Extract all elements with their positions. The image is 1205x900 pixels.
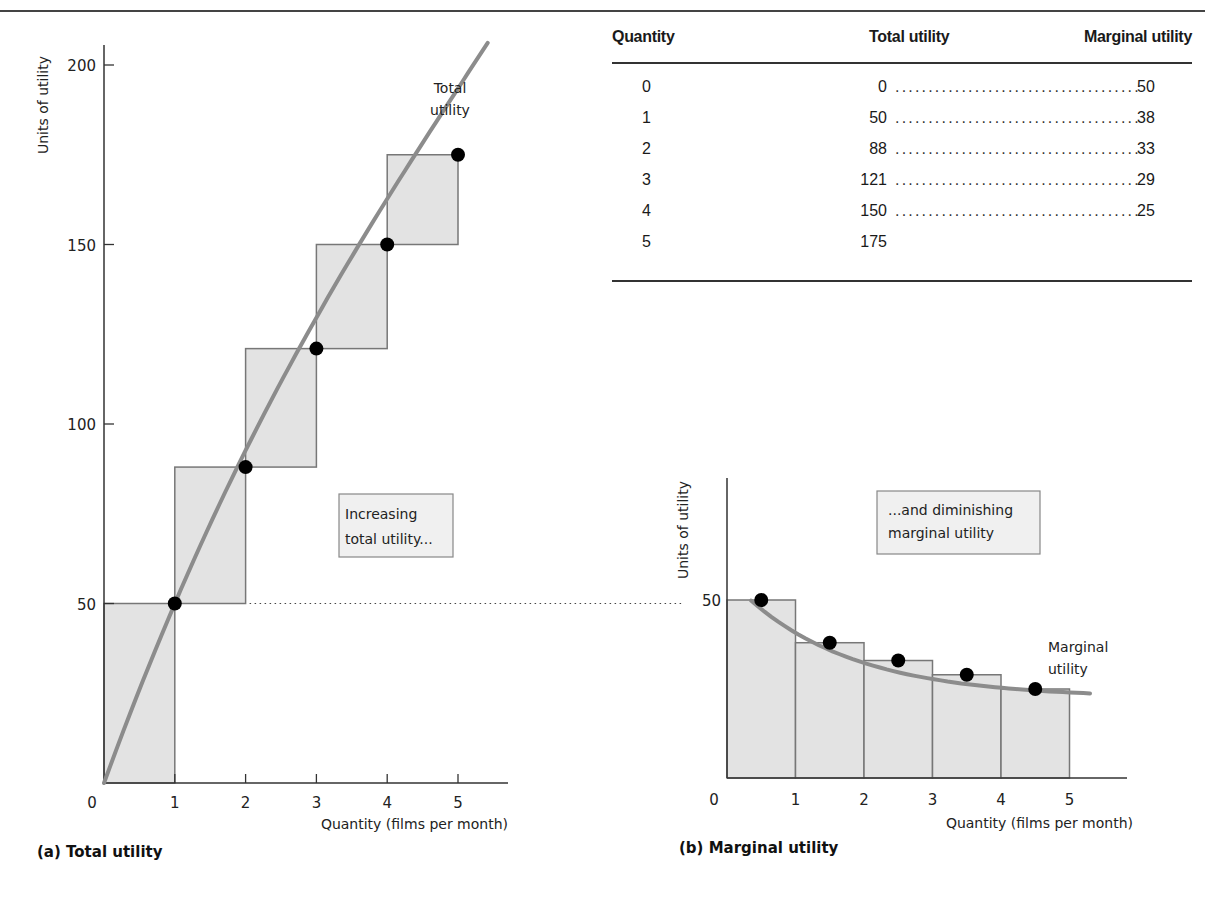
table-row: 4150....................................… [612, 202, 1192, 233]
table-row: 5175 [612, 233, 1192, 264]
caption-marginal-utility: (b) Marginal utility [679, 839, 838, 857]
y-tick-label: 200 [67, 57, 96, 75]
data-point [891, 654, 905, 668]
header-marginal-utility: Marginal utility [1084, 28, 1192, 46]
data-point [1028, 682, 1042, 696]
header-total-utility: Total utility [869, 28, 949, 46]
y-tick-label: 150 [67, 237, 96, 255]
data-point [309, 342, 323, 356]
cell-marginal-utility: 38 [1137, 109, 1155, 127]
marginal-bar [796, 643, 865, 778]
marginal-bar [933, 675, 1002, 778]
cell-total-utility: 121 [860, 171, 887, 189]
leader-dots: ........................................… [895, 109, 1138, 127]
x-tick-label: 2 [859, 791, 869, 809]
utility-table: Quantity Total utility Marginal utility … [612, 28, 1192, 282]
cell-marginal-utility: 29 [1137, 171, 1155, 189]
curve-label-line2: utility [1048, 661, 1088, 677]
curve-label-line1: Marginal [1048, 639, 1108, 655]
data-point [380, 238, 394, 252]
cell-marginal-utility: 25 [1137, 202, 1155, 220]
data-point [239, 460, 253, 474]
y-axis-title: Units of utility [35, 56, 51, 154]
annotation-text-line2: total utility... [345, 531, 433, 547]
x-tick-label: 1 [791, 791, 801, 809]
curve-label-line1: Total [433, 80, 467, 96]
cell-total-utility: 0 [878, 78, 887, 96]
cell-total-utility: 88 [869, 140, 887, 158]
data-point [168, 597, 182, 611]
annotation-text-line1: ...and diminishing [888, 502, 1013, 518]
table-row: 00......................................… [612, 78, 1192, 109]
caption-total-utility: (a) Total utility [37, 843, 162, 861]
cell-quantity: 4 [642, 202, 651, 220]
leader-dots: ........................................… [895, 202, 1138, 220]
table-body: 00......................................… [612, 64, 1192, 282]
annotation-box [877, 491, 1040, 554]
cell-quantity: 2 [642, 140, 651, 158]
x-tick-label: 1 [170, 794, 180, 812]
table-row: 3121....................................… [612, 171, 1192, 202]
data-point [960, 668, 974, 682]
y-tick-label: 50 [77, 596, 96, 614]
cell-quantity: 0 [642, 78, 651, 96]
cell-quantity: 5 [642, 233, 651, 251]
cell-total-utility: 50 [869, 109, 887, 127]
x-tick-label: 4 [382, 794, 392, 812]
header-quantity: Quantity [612, 28, 675, 46]
y-tick-label: 50 [702, 592, 721, 610]
cell-marginal-utility: 33 [1137, 140, 1155, 158]
y-tick-label: 100 [67, 416, 96, 434]
cell-marginal-utility: 50 [1137, 78, 1155, 96]
x-axis-title: Quantity (films per month) [321, 816, 508, 832]
table-row: 150.....................................… [612, 109, 1192, 140]
leader-dots: ........................................… [895, 171, 1138, 189]
step-box [246, 349, 317, 467]
annotation-box [339, 494, 453, 557]
data-point [451, 148, 465, 162]
x-tick-label: 5 [1065, 791, 1075, 809]
annotation-text-line2: marginal utility [888, 525, 994, 541]
leader-dots: ........................................… [895, 78, 1138, 96]
cell-quantity: 3 [642, 171, 651, 189]
x-tick-label: 4 [996, 791, 1006, 809]
cell-quantity: 1 [642, 109, 651, 127]
y-axis-title: Units of utility [675, 481, 691, 579]
data-point [754, 593, 768, 607]
x-axis-title: Quantity (films per month) [946, 815, 1133, 831]
x-tick-label: 0 [709, 791, 719, 809]
data-point [823, 636, 837, 650]
cell-total-utility: 150 [860, 202, 887, 220]
step-box [387, 155, 458, 245]
leader-dots: ........................................… [895, 140, 1138, 158]
table-header: Quantity Total utility Marginal utility [612, 28, 1192, 64]
x-tick-label: 3 [312, 794, 322, 812]
x-tick-label: 3 [928, 791, 938, 809]
x-tick-label: 0 [87, 794, 97, 812]
x-tick-label: 5 [453, 794, 463, 812]
marginal-bar [1001, 689, 1070, 778]
cell-total-utility: 175 [860, 233, 887, 251]
table-row: 288.....................................… [612, 140, 1192, 171]
annotation-text-line1: Increasing [345, 506, 417, 522]
curve-label-line2: utility [430, 102, 470, 118]
x-tick-label: 2 [241, 794, 251, 812]
